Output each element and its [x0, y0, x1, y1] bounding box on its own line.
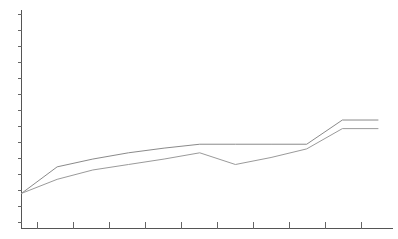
chart-container [0, 0, 398, 239]
plot-background [0, 0, 398, 239]
line-chart-plot [0, 0, 398, 239]
